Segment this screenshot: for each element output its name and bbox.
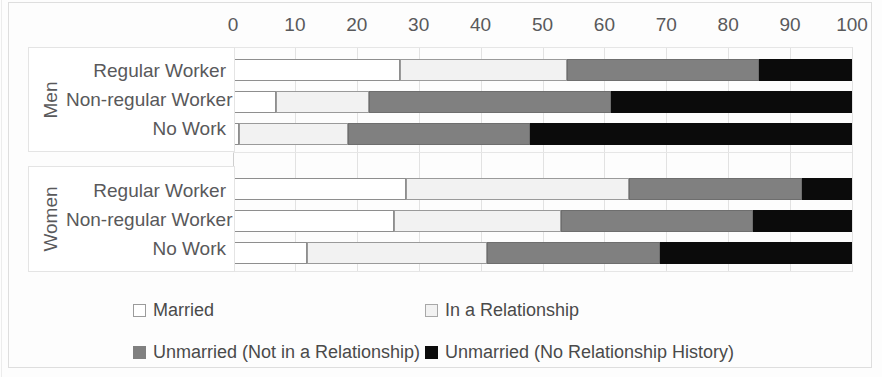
category-panel-women: Women Regular Worker Non-regular Worker … — [28, 166, 235, 272]
page-left-edge — [1, 0, 2, 377]
x-tick-90: 90 — [780, 14, 801, 36]
legend-item-unmarried-no-history[interactable]: Unmarried (No Relationship History) — [425, 343, 734, 361]
x-tick-40: 40 — [470, 14, 491, 36]
category-label-men-non-regular-worker: Non-regular Worker — [66, 90, 226, 109]
category-label-women-regular-worker: Regular Worker — [66, 181, 226, 200]
legend-swatch-white-icon — [133, 304, 146, 317]
category-labels-men: Regular Worker Non-regular Worker No Wor… — [66, 48, 226, 151]
x-tick-30: 30 — [408, 14, 429, 36]
segment-unmarried-no-history — [759, 59, 852, 81]
group-separator-top — [233, 47, 852, 48]
bar-women-no-work[interactable] — [233, 242, 852, 264]
group-separator-men-women — [233, 152, 852, 153]
segment-married — [233, 59, 400, 81]
legend-item-married[interactable]: Married — [133, 301, 214, 319]
category-label-men-regular-worker: Regular Worker — [66, 61, 226, 80]
category-panel-men: Men Regular Worker Non-regular Worker No… — [28, 47, 235, 152]
segment-in-a-relationship — [276, 91, 369, 113]
x-tick-20: 20 — [346, 14, 367, 36]
chart-page: 0 10 20 30 40 50 60 70 80 90 100 — [0, 0, 882, 377]
segment-married — [233, 178, 406, 200]
x-tick-80: 80 — [718, 14, 739, 36]
group-separator-bottom — [233, 271, 852, 272]
x-tick-50: 50 — [532, 14, 553, 36]
segment-unmarried-no-history — [753, 210, 852, 232]
group-label-women: Women — [33, 167, 69, 271]
segment-unmarried-not-in-relationship — [567, 59, 759, 81]
x-tick-60: 60 — [594, 14, 615, 36]
x-tick-10: 10 — [284, 14, 305, 36]
x-tick-70: 70 — [656, 14, 677, 36]
plot-area — [233, 47, 852, 272]
bar-men-non-regular-worker[interactable] — [233, 91, 852, 113]
group-label-women-text: Women — [40, 186, 62, 251]
legend-swatch-light-gray-icon — [425, 304, 438, 317]
segment-married — [233, 91, 276, 113]
segment-unmarried-not-in-relationship — [629, 178, 802, 200]
legend-item-unmarried-not-in-relationship[interactable]: Unmarried (Not in a Relationship) — [133, 343, 420, 361]
bar-women-non-regular-worker[interactable] — [233, 210, 852, 232]
segment-in-a-relationship — [239, 123, 347, 145]
category-labels-women: Regular Worker Non-regular Worker No Wor… — [66, 167, 226, 271]
segment-unmarried-not-in-relationship — [348, 123, 531, 145]
segment-married — [233, 210, 394, 232]
group-label-men: Men — [33, 48, 69, 151]
legend-label-married: Married — [153, 301, 214, 319]
segment-in-a-relationship — [307, 242, 487, 264]
gridline-100 — [852, 47, 853, 272]
segment-unmarried-no-history — [660, 242, 852, 264]
x-tick-0: 0 — [228, 14, 239, 36]
segment-unmarried-no-history — [530, 123, 852, 145]
category-label-women-no-work: No Work — [66, 239, 226, 258]
segment-in-a-relationship — [394, 210, 561, 232]
segment-unmarried-not-in-relationship — [561, 210, 753, 232]
category-label-men-no-work: No Work — [66, 119, 226, 138]
x-axis-tick-labels: 0 10 20 30 40 50 60 70 80 90 100 — [233, 14, 852, 40]
segment-unmarried-no-history — [611, 91, 852, 113]
legend-item-in-a-relationship[interactable]: In a Relationship — [425, 301, 579, 319]
chart-legend: Married In a Relationship Unmarried (Not… — [133, 297, 833, 367]
bar-men-no-work[interactable] — [233, 123, 852, 145]
bar-men-regular-worker[interactable] — [233, 59, 852, 81]
segment-unmarried-not-in-relationship — [487, 242, 660, 264]
legend-swatch-gray-icon — [133, 346, 146, 359]
segment-in-a-relationship — [406, 178, 629, 200]
segment-unmarried-no-history — [802, 178, 852, 200]
legend-label-in-a-relationship: In a Relationship — [445, 301, 579, 319]
legend-label-unmarried-no-history: Unmarried (No Relationship History) — [445, 343, 734, 361]
group-label-men-text: Men — [40, 81, 62, 118]
segment-unmarried-not-in-relationship — [369, 91, 610, 113]
legend-label-unmarried-not-in-relationship: Unmarried (Not in a Relationship) — [153, 343, 420, 361]
segment-married — [233, 242, 307, 264]
x-tick-100: 100 — [836, 14, 868, 36]
category-label-women-non-regular-worker: Non-regular Worker — [66, 210, 226, 229]
bar-women-regular-worker[interactable] — [233, 178, 852, 200]
legend-swatch-black-icon — [425, 346, 438, 359]
segment-in-a-relationship — [400, 59, 567, 81]
